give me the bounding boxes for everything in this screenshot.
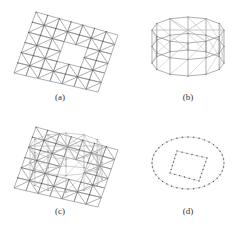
caption-a: (a)	[40, 92, 80, 102]
mesh-figure: (a) (b) (c) (d)	[0, 0, 236, 230]
caption-b: (b)	[168, 92, 208, 102]
caption-c: (c)	[40, 206, 80, 216]
mesh-canvas	[0, 0, 236, 230]
mesh-panel-d	[151, 136, 224, 189]
caption-d: (d)	[168, 206, 208, 216]
mesh-panel-b	[151, 16, 224, 76]
mesh-panel-a	[14, 11, 118, 92]
mesh-panel-c	[14, 126, 118, 207]
